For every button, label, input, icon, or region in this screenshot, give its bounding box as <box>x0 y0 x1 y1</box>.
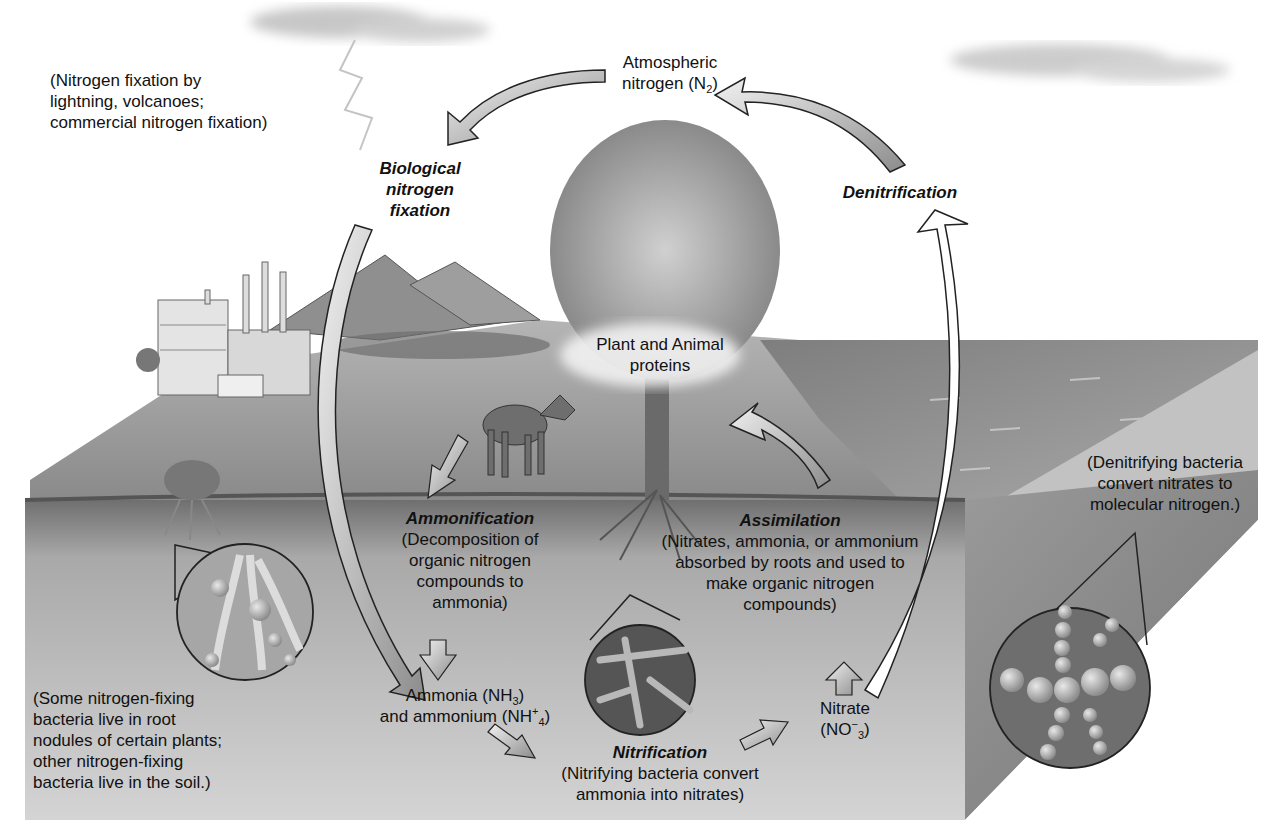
node-nitrate: Nitrate (NO−3) <box>795 698 895 740</box>
node-atmospheric-nitrogen: Atmospheric nitrogen (N2) <box>600 52 740 94</box>
note-denitrifying-bacteria: (Denitrifying bacteria convert nitrates … <box>1060 452 1270 515</box>
nitrification-title: Nitrification <box>525 742 795 763</box>
ammonia-line2: and ammonium (NH+4) <box>365 706 565 727</box>
note-root-line: other nitrogen-fixing <box>33 751 293 772</box>
note-lightning-line: (Nitrogen fixation by <box>50 70 340 91</box>
cloud-left <box>250 6 490 42</box>
bio-fix-line: fixation <box>350 200 490 221</box>
assimilation-desc: absorbed by roots and used to <box>630 552 950 573</box>
note-lightning-line: lightning, volcanoes; <box>50 91 340 112</box>
volcano-mountains <box>270 255 550 359</box>
proteins-line2: proteins <box>575 355 745 376</box>
ammonification-title: Ammonification <box>375 508 565 529</box>
note-lightning: (Nitrogen fixation by lightning, volcano… <box>50 70 340 133</box>
factory <box>136 262 310 397</box>
arrow-from-atmosphere <box>448 70 605 145</box>
process-nitrification: Nitrification (Nitrifying bacteria conve… <box>525 742 795 805</box>
nitrate-line2: (NO−3) <box>795 719 895 740</box>
ammonification-desc: ammonia) <box>375 592 565 613</box>
atmospheric-line2: nitrogen (N2) <box>600 73 740 94</box>
bio-fix-line: Biological <box>350 158 490 179</box>
cloud-right <box>950 44 1230 82</box>
note-root-line: (Some nitrogen-fixing <box>33 688 293 709</box>
note-denitrifying-line: (Denitrifying bacteria <box>1060 452 1270 473</box>
lightning-bolt <box>340 40 372 150</box>
note-root-line: nodules of certain plants; <box>33 730 293 751</box>
ammonification-desc: (Decomposition of <box>375 529 565 550</box>
ammonification-desc: organic nitrogen <box>375 550 565 571</box>
note-denitrifying-line: molecular nitrogen.) <box>1060 494 1270 515</box>
node-proteins: Plant and Animal proteins <box>575 334 745 376</box>
assimilation-desc: (Nitrates, ammonia, or ammonium <box>630 531 950 552</box>
proteins-line1: Plant and Animal <box>575 334 745 355</box>
nitrification-desc: (Nitrifying bacteria convert <box>525 763 795 784</box>
root-nodule-magnifier <box>175 544 313 680</box>
ammonia-line1: Ammonia (NH3) <box>365 685 565 706</box>
process-ammonification: Ammonification (Decomposition of organic… <box>375 508 565 613</box>
atmospheric-line1: Atmospheric <box>600 52 740 73</box>
assimilation-desc: make organic nitrogen <box>630 573 950 594</box>
bio-fix-line: nitrogen <box>350 179 490 200</box>
process-biological-fixation: Biological nitrogen fixation <box>350 158 490 221</box>
assimilation-title: Assimilation <box>630 510 950 531</box>
assimilation-desc: compounds) <box>630 594 950 615</box>
note-denitrifying-line: convert nitrates to <box>1060 473 1270 494</box>
node-ammonia: Ammonia (NH3) and ammonium (NH+4) <box>365 685 565 727</box>
note-root-line: bacteria live in root <box>33 709 293 730</box>
nitrate-line1: Nitrate <box>795 698 895 719</box>
process-assimilation: Assimilation (Nitrates, ammonia, or ammo… <box>630 510 950 615</box>
nitrification-desc: ammonia into nitrates) <box>525 784 795 805</box>
ammonification-desc: compounds to <box>375 571 565 592</box>
note-root-nodules: (Some nitrogen-fixing bacteria live in r… <box>33 688 293 793</box>
note-lightning-line: commercial nitrogen fixation) <box>50 112 340 133</box>
process-denitrification: Denitrification <box>820 182 980 203</box>
note-root-line: bacteria live in the soil.) <box>33 772 293 793</box>
